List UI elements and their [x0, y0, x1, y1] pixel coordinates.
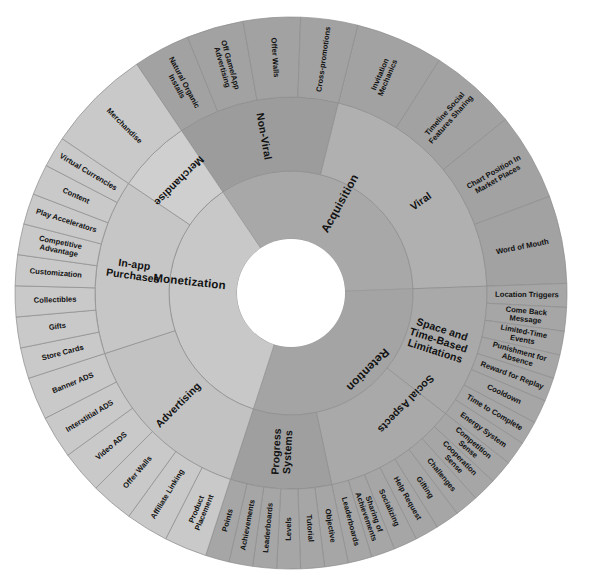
svg-text:Location Triggers: Location Triggers	[495, 290, 559, 300]
svg-text:Levels: Levels	[284, 517, 293, 541]
label-collectibles-2: Collectibles	[34, 295, 77, 305]
sunburst-chart: InvitationMechanicsTimeline SocialFeatur…	[0, 0, 589, 580]
svg-text:Collectibles: Collectibles	[34, 295, 77, 305]
label-location-triggers-0: Location Triggers	[495, 290, 559, 300]
label-progress-systems: ProgressSystems	[269, 428, 295, 476]
center-hole	[237, 239, 345, 347]
label-levels-2: Levels	[284, 517, 293, 541]
sunburst-figure: InvitationMechanicsTimeline SocialFeatur…	[0, 0, 589, 580]
svg-text:Systems: Systems	[280, 430, 294, 475]
